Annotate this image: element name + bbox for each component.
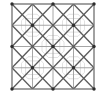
lattice-node-dot <box>51 2 54 5</box>
lattice-node-dot <box>72 24 75 27</box>
lattice-node-dot <box>72 66 75 69</box>
lattice-node-dot <box>92 45 95 48</box>
lattice-node-dot <box>51 45 54 48</box>
lattice-node-dot <box>31 24 34 27</box>
lattice-node-dot <box>10 87 13 90</box>
lattice-node-dot <box>92 87 95 90</box>
tiling-pattern-svg <box>0 0 107 97</box>
lattice-node-dot <box>92 2 95 5</box>
lattice-node-dot <box>10 45 13 48</box>
lattice-node-dot <box>31 66 34 69</box>
lattice-node-dot <box>10 2 13 5</box>
canvas-background <box>0 0 107 97</box>
lattice-node-dot <box>51 87 54 90</box>
pattern-figure-root: Geometric Tiling Pattern Square panel co… <box>0 0 107 97</box>
